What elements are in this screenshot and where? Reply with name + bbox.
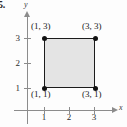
square-shape: [44, 38, 95, 88]
y-axis-arrow-icon: [24, 11, 30, 17]
y-tick-label-3: 3: [8, 33, 20, 43]
x-tick-label-1: 1: [38, 112, 50, 122]
y-tick-mark-3: [24, 38, 31, 39]
x-tick-label-3: 3: [88, 112, 100, 122]
coordinate-plane-figure: 5. x y 1 2 3 1 2 3 (1, 3) (3, 3) (1, 1) …: [0, 0, 127, 127]
vertex-label-1-3: (1, 3): [31, 21, 51, 31]
vertex-dot-1-3: [42, 36, 47, 41]
vertex-label-3-3: (3, 3): [82, 21, 102, 31]
vertex-dot-3-3: [93, 36, 98, 41]
x-axis-line: [14, 110, 115, 111]
x-axis-label: x: [119, 103, 123, 112]
y-axis-line: [27, 14, 28, 124]
y-tick-label-2: 2: [8, 58, 20, 68]
x-axis-arrow-icon: [112, 107, 118, 113]
x-tick-label-2: 2: [63, 112, 75, 122]
y-tick-mark-2: [24, 63, 31, 64]
vertex-label-1-1: (1, 1): [31, 89, 51, 99]
y-tick-mark-1: [24, 88, 31, 89]
y-tick-label-1: 1: [8, 83, 20, 93]
problem-number: 5.: [0, 0, 5, 10]
y-axis-label: y: [24, 0, 28, 9]
vertex-label-3-1: (3, 1): [82, 89, 102, 99]
